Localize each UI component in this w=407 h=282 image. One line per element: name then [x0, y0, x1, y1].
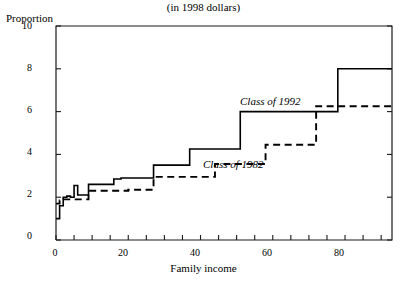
chart-figure: (in 1998 dollars) Proportion Family inco…: [0, 0, 407, 282]
axis-ticks: [56, 26, 392, 240]
series-line-class-of-1992: [56, 69, 392, 219]
series-line-class-of-1982: [56, 106, 392, 203]
plot-area: [0, 0, 407, 282]
axis-frame: [56, 26, 392, 240]
chart-svg: [0, 0, 407, 282]
